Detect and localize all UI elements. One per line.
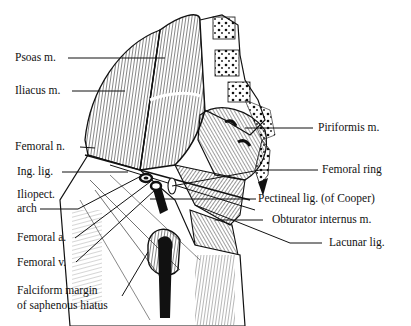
label-inguinal-ligament: Ing. lig. [17, 165, 53, 178]
label-iliopectineal-arch-line2: arch [17, 202, 37, 215]
label-femoral-nerve: Femoral n. [15, 140, 65, 153]
label-piriformis: Piriformis m. [318, 121, 379, 134]
label-femoral-artery: Femoral a. [17, 231, 66, 244]
label-obturator-internus: Obturator internus m. [272, 213, 371, 226]
label-pectineal-ligament: Pectineal lig. (of Cooper) [258, 192, 375, 205]
label-iliacus: Iliacus m. [15, 84, 60, 97]
label-femoral-ring: Femoral ring [322, 163, 382, 176]
label-psoas: Psoas m. [15, 51, 56, 64]
label-falciform-margin-line2: of saphenous hiatus [17, 299, 108, 312]
label-femoral-vein: Femoral v. [17, 256, 66, 269]
label-lacunar-ligament: Lacunar lig. [329, 236, 385, 249]
label-iliopectineal-arch-line1: Iliopect. [17, 188, 55, 201]
label-falciform-margin-line1: Falciform margin [17, 284, 98, 297]
